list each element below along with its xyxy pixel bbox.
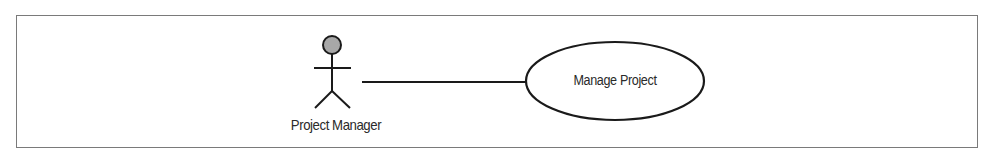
use-case-label: Manage Project	[552, 72, 678, 88]
actor-label: Project Manager	[280, 116, 393, 133]
actor-left-leg	[315, 91, 332, 108]
actor-head	[323, 36, 341, 54]
actor-stick-figure-icon	[314, 36, 351, 108]
use-case-diagram	[0, 0, 993, 159]
actor-right-leg	[332, 91, 350, 108]
